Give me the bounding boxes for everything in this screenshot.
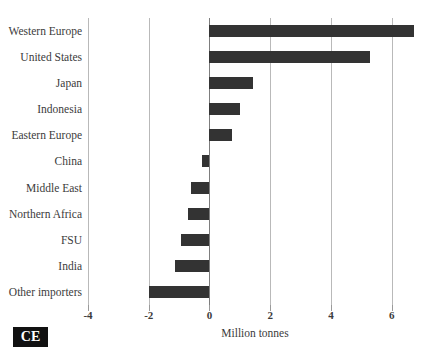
bar-row [88,148,422,174]
category-axis-labels: Western EuropeUnited StatesJapanIndonesi… [0,18,82,305]
bar-row [88,201,422,227]
category-label: Northern Africa [0,201,82,227]
category-label: Indonesia [0,96,82,122]
category-label: China [0,148,82,174]
x-axis-title: Million tonnes [88,327,422,339]
plot-area: Western EuropeUnited StatesJapanIndonesi… [88,18,422,305]
brand-logo: CE [13,327,48,347]
bar-chart-figure: Western EuropeUnited StatesJapanIndonesi… [0,0,430,360]
category-label: Middle East [0,175,82,201]
bar [209,103,239,115]
bar [209,77,253,89]
bar-row [88,253,422,279]
category-label: Other importers [0,279,82,305]
category-label: FSU [0,227,82,253]
bar-row [88,44,422,70]
bar [209,25,414,37]
bar [188,208,209,220]
bar-row [88,122,422,148]
bar-row [88,227,422,253]
bar [149,286,210,298]
x-tick-label: -4 [68,309,108,321]
category-label: India [0,253,82,279]
category-label: Japan [0,70,82,96]
bar-row [88,96,422,122]
bar-row [88,70,422,96]
x-tick-label: 2 [250,309,290,321]
bar [202,155,210,167]
x-tick-label: -2 [129,309,169,321]
category-label: United States [0,44,82,70]
bar [209,129,232,141]
x-tick-label: 4 [311,309,351,321]
category-label: Western Europe [0,18,82,44]
bar-row [88,175,422,201]
bar-row [88,18,422,44]
brand-logo-text: CE [21,330,40,344]
bar [181,234,210,246]
x-tick-label: 6 [372,309,412,321]
source-caption [13,352,413,360]
bar [209,51,370,63]
bar [191,182,209,194]
bar [175,260,210,272]
category-label: Eastern Europe [0,122,82,148]
x-tick-label: 0 [189,309,229,321]
bar-row [88,279,422,305]
